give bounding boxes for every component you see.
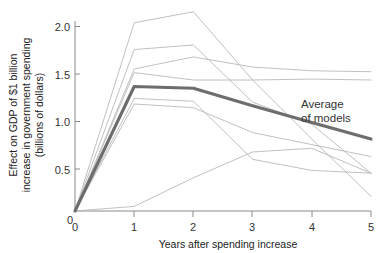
x-tick-label-0: 0 bbox=[72, 221, 78, 233]
annotation-line2: of models bbox=[301, 112, 351, 124]
series-model-7 bbox=[75, 148, 371, 211]
y-axis-title-line2: increase in government spending bbox=[20, 38, 32, 193]
x-axis-title: Years after spending increase bbox=[159, 238, 298, 250]
line-chart-canvas: Effect on GDP of $1 billion increase in … bbox=[0, 0, 387, 253]
x-tick-label-4: 4 bbox=[309, 221, 315, 233]
series-model-4 bbox=[75, 73, 371, 211]
x-tick-label-2: 2 bbox=[190, 221, 196, 233]
chart-figure: Effect on GDP of $1 billion increase in … bbox=[0, 0, 387, 253]
y-axis-title: Effect on GDP of $1 billion increase in … bbox=[7, 38, 45, 193]
y-tick-label-1.0: 1.0 bbox=[55, 116, 70, 128]
y-tick-label-0.5: 0.5 bbox=[55, 164, 70, 176]
annotation-line1: Average bbox=[301, 98, 344, 110]
x-tick-label-1: 1 bbox=[131, 221, 137, 233]
y-axis-title-line1: Effect on GDP of $1 billion bbox=[7, 53, 19, 176]
y-tick-label-2.0: 2.0 bbox=[55, 21, 70, 33]
y-axis-title-line3: (billions of dollars) bbox=[33, 73, 45, 158]
x-tick-label-3: 3 bbox=[249, 221, 255, 233]
x-tick-label-5: 5 bbox=[368, 221, 374, 233]
y-tick-label-1.5: 1.5 bbox=[55, 69, 70, 81]
average-of-models-annotation: Average of models bbox=[301, 98, 351, 124]
